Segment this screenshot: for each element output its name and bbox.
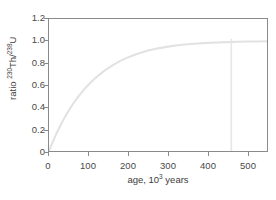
ingrowth-curve: [49, 41, 267, 151]
y-tick-mark: [44, 85, 48, 86]
x-tick-label: 100: [80, 161, 96, 171]
y-axis-title-sup-230: 230: [6, 68, 13, 79]
y-axis-title-prefix: ratio: [7, 79, 18, 100]
y-tick-label: 0: [17, 147, 45, 157]
x-tick-label: 200: [120, 161, 136, 171]
y-tick-label: 0.8: [17, 58, 45, 68]
plot-area: [48, 18, 268, 152]
y-tick-mark: [44, 40, 48, 41]
x-axis-ticks: 0100200300400500: [48, 155, 268, 169]
y-tick-mark: [44, 107, 48, 108]
y-tick-label: 1.2: [17, 13, 45, 23]
x-tick-mark: [208, 152, 209, 156]
x-tick-mark: [88, 152, 89, 156]
x-tick-mark: [48, 152, 49, 156]
x-tick-mark: [168, 152, 169, 156]
y-tick-mark: [44, 130, 48, 131]
y-axis-title-sup-238: 238: [6, 43, 13, 54]
y-tick-label: 0.6: [17, 80, 45, 90]
y-tick-mark: [44, 18, 48, 19]
x-tick-label: 400: [200, 161, 216, 171]
x-tick-mark: [248, 152, 249, 156]
y-axis-title-suffix: U: [7, 37, 18, 44]
y-axis-title-mid: Th/: [7, 54, 18, 68]
y-tick-label: 1.0: [17, 36, 45, 46]
series-layer: [49, 41, 267, 151]
chart-page: 00.20.40.60.81.01.2 0100200300400500 rat…: [0, 0, 276, 200]
x-tick-label: 0: [45, 161, 50, 171]
y-tick-mark: [44, 63, 48, 64]
x-axis-title-prefix: age, 10: [127, 174, 159, 185]
y-tick-label: 0.4: [17, 103, 45, 113]
x-tick-mark: [128, 152, 129, 156]
x-axis-title: age, 103 years: [48, 174, 268, 185]
plot-svg: [49, 19, 267, 151]
y-axis-title: ratio 230Th/238U: [8, 8, 18, 128]
x-tick-label: 500: [240, 161, 256, 171]
y-tick-label: 0.2: [17, 125, 45, 135]
x-axis-title-suffix: years: [163, 174, 189, 185]
x-tick-label: 300: [160, 161, 176, 171]
